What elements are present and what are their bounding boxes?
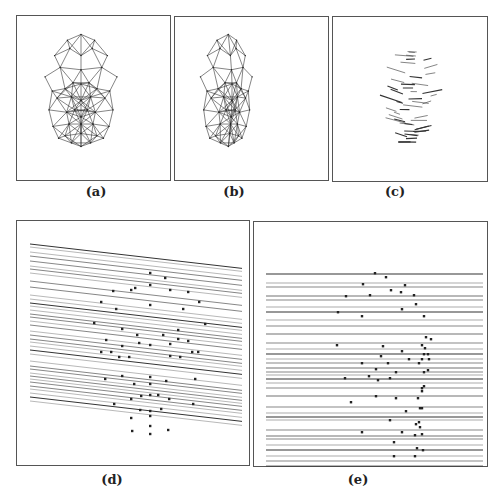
panel-e [253, 221, 488, 467]
panel-c [332, 16, 488, 182]
panel-a-label: (a) [66, 184, 126, 199]
panel-b-graphic [175, 17, 330, 182]
panel-c-label: (c) [365, 184, 425, 199]
panel-a [16, 15, 171, 181]
panel-d-label: (d) [82, 472, 142, 487]
panel-e-label: (e) [328, 472, 388, 487]
panel-a-graphic [17, 16, 172, 182]
panel-c-graphic [333, 17, 489, 183]
panel-d-graphic [17, 221, 251, 467]
panel-d [16, 220, 250, 466]
panel-b [174, 16, 329, 181]
panel-b-label: (b) [204, 184, 264, 199]
panel-e-graphic [254, 222, 489, 468]
